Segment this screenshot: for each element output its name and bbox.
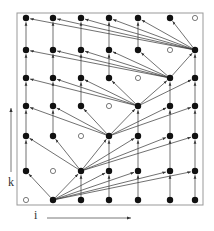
- dependency-arrow: [112, 108, 166, 135]
- dependency-arrow: [141, 80, 191, 105]
- filled-node: [192, 168, 198, 174]
- filled-node: [23, 168, 29, 174]
- i-axis-label: i: [34, 208, 37, 223]
- open-node: [23, 197, 28, 202]
- filled-node: [167, 168, 173, 174]
- filled-node: [192, 103, 198, 109]
- filled-node: [23, 133, 29, 139]
- filled-node: [23, 75, 29, 81]
- filled-node: [192, 75, 198, 81]
- filled-node: [135, 197, 141, 203]
- open-node: [50, 168, 55, 173]
- filled-node: [167, 197, 173, 203]
- open-node: [106, 103, 111, 108]
- filled-node: [23, 103, 29, 109]
- filled-node: [106, 15, 112, 21]
- filled-node: [135, 47, 141, 53]
- dependency-arrow: [84, 109, 107, 134]
- dependency-arrow: [30, 19, 192, 50]
- filled-node: [23, 47, 29, 53]
- hub-node: [192, 47, 198, 53]
- filled-node: [50, 15, 56, 21]
- hub-node: [106, 133, 112, 139]
- diagram-frame: [17, 13, 203, 205]
- filled-node: [167, 15, 173, 21]
- dependency-arrow: [30, 51, 167, 78]
- filled-node: [167, 103, 173, 109]
- filled-node: [106, 168, 112, 174]
- filled-node: [192, 133, 198, 139]
- filled-node: [78, 197, 84, 203]
- filled-node: [50, 133, 56, 139]
- hub-node: [78, 168, 84, 174]
- filled-node: [50, 103, 56, 109]
- open-node: [192, 15, 197, 20]
- hub-node: [167, 75, 173, 81]
- dependency-arrow: [30, 138, 79, 169]
- filled-node: [50, 47, 56, 53]
- dependency-arrow: [113, 52, 167, 77]
- filled-node: [50, 75, 56, 81]
- dependency-arrow: [85, 19, 192, 49]
- dependency-arrow: [172, 53, 192, 75]
- hub-node: [135, 103, 141, 109]
- filled-node: [78, 15, 84, 21]
- filled-node: [192, 197, 198, 203]
- open-node: [135, 75, 140, 80]
- dependency-arrow: [111, 109, 135, 134]
- dependency-arrow: [84, 138, 166, 170]
- filled-node: [135, 133, 141, 139]
- filled-node: [78, 47, 84, 53]
- open-node: [78, 133, 83, 138]
- dependency-arrow: [57, 108, 106, 135]
- filled-node: [106, 75, 112, 81]
- dependency-arrow: [56, 139, 79, 168]
- dependency-arrow: [112, 107, 191, 135]
- dependency-arrow: [142, 20, 193, 48]
- filled-node: [135, 15, 141, 21]
- k-axis-label: k: [8, 175, 14, 190]
- filled-node: [78, 75, 84, 81]
- dependency-arrow: [56, 172, 166, 199]
- dependency-arrow: [29, 174, 51, 198]
- filled-node: [23, 15, 29, 21]
- filled-node: [106, 47, 112, 53]
- dependency-arrow: [141, 53, 167, 76]
- dependency-arrow: [55, 174, 78, 198]
- filled-node: [78, 103, 84, 109]
- nodes: [23, 15, 198, 203]
- dependency-diagram: [0, 0, 214, 231]
- dependency-arrow: [30, 107, 106, 134]
- dependency-arrow: [57, 51, 167, 77]
- filled-node: [167, 133, 173, 139]
- dependency-arrow: [140, 81, 166, 104]
- filled-node: [106, 197, 112, 203]
- dependency-arrow: [30, 79, 135, 105]
- filled-node: [135, 168, 141, 174]
- dependency-arrow: [85, 80, 135, 105]
- open-node: [167, 47, 172, 52]
- dependency-arrow: [84, 137, 191, 170]
- hub-node: [50, 197, 56, 203]
